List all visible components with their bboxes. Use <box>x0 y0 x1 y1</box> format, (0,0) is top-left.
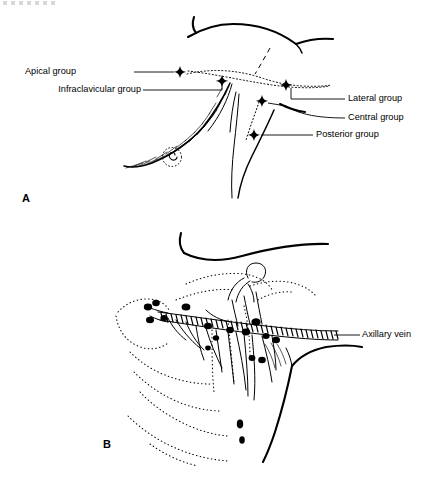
panel-a-arm-fold <box>230 92 305 198</box>
node-marker-apical <box>174 66 186 78</box>
label-infraclavicular-group: Infraclavicular group <box>58 84 141 94</box>
node-marker-posterior <box>248 129 260 141</box>
panel-b-body-outline <box>180 233 328 260</box>
panel-a-node-markers <box>174 66 292 141</box>
node-marker-lateral <box>280 79 292 91</box>
panel-b-arm-outline <box>263 343 362 462</box>
panel-a-breast-contour <box>124 83 232 168</box>
panel-a: Apical group Infraclavicular group Later… <box>22 17 404 204</box>
figure-canvas: Apical group Infraclavicular group Later… <box>0 0 429 477</box>
panel-a-hatching <box>126 86 229 168</box>
panel-a-clavicle-dotted <box>187 48 332 88</box>
panel-a-body-outline <box>188 17 333 53</box>
label-lateral-group: Lateral group <box>348 93 402 103</box>
panel-b: Axillary vein B <box>103 233 411 466</box>
label-central-group: Central group <box>348 112 404 122</box>
scan-artifact-smudge <box>3 1 59 5</box>
label-posterior-group: Posterior group <box>316 129 379 139</box>
panel-b-clavicle-loop <box>228 263 266 302</box>
panel-letter-b: B <box>103 438 111 450</box>
panel-b-rib-contours <box>116 273 316 466</box>
panel-letter-a: A <box>22 192 30 204</box>
label-axillary-vein: Axillary vein <box>362 329 411 339</box>
figure-root: Apical group Infraclavicular group Later… <box>0 0 429 477</box>
label-apical-group: Apical group <box>25 66 76 76</box>
panel-a-leader-lines <box>134 72 345 135</box>
